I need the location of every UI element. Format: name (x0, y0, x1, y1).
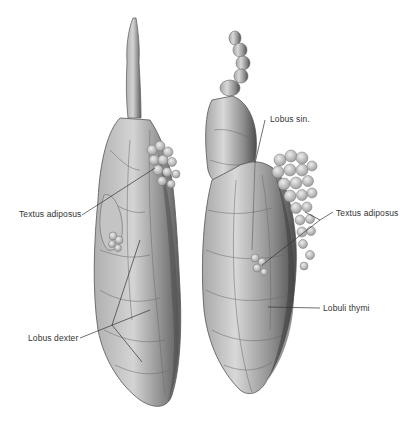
label-lobus-sin: Lobus sin. (270, 114, 310, 124)
label-lobus-dexter: Lobus dexter (28, 333, 78, 343)
label-textus-adiposus-left: Textus adiposus (19, 209, 81, 219)
label-lobuli-thymi: Lobuli thymi (323, 303, 370, 313)
left-specimen (94, 18, 181, 406)
label-textus-adiposus-right: Textus adiposus (336, 208, 398, 218)
thymus-illustration: Textus adiposus Lobus sin. Textus adipos… (0, 0, 414, 427)
right-specimen (202, 31, 317, 394)
